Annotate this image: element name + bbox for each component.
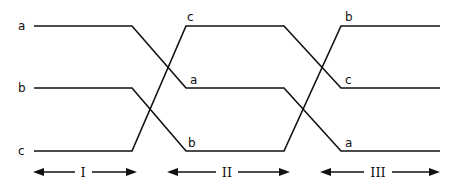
arrow-left-icon xyxy=(33,168,44,176)
left-label-c: c xyxy=(18,144,25,158)
stage3-label-middle: c xyxy=(345,73,352,87)
stage2-label-top: c xyxy=(187,10,194,24)
region-label-iii: III xyxy=(370,165,385,180)
stage3-label-top: b xyxy=(345,10,353,24)
region-arrow-i: I xyxy=(33,165,137,180)
arrow-right-icon xyxy=(126,168,137,176)
stage2-label-middle: a xyxy=(190,73,197,87)
arrow-right-icon xyxy=(279,168,290,176)
region-label-ii: II xyxy=(222,165,232,180)
permutation-diagram: a b c c a b b c a I II III xyxy=(0,0,461,189)
stage3-label-bottom: a xyxy=(345,136,352,150)
arrow-left-icon xyxy=(167,168,178,176)
left-label-a: a xyxy=(18,19,25,33)
region-arrow-iii: III xyxy=(320,165,440,180)
stage2-label-bottom: b xyxy=(188,136,196,150)
left-label-b: b xyxy=(18,81,26,95)
arrow-right-icon xyxy=(429,168,440,176)
region-arrow-ii: II xyxy=(167,165,290,180)
arrow-left-icon xyxy=(320,168,331,176)
region-label-i: I xyxy=(80,165,85,180)
